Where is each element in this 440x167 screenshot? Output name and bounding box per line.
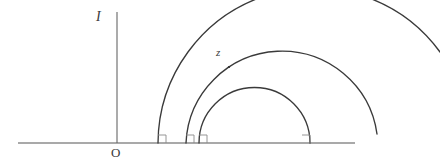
intersection-point-label: z (216, 47, 220, 58)
right-angle-marker-4 (302, 135, 310, 143)
figure-canvas (0, 0, 440, 167)
geometry-figure: I O z (0, 0, 440, 167)
right-angle-marker-3 (199, 135, 207, 143)
arc-small (199, 88, 310, 143)
intersection-point-z (228, 66, 230, 68)
origin-label: O (111, 146, 120, 159)
right-angle-marker-2 (186, 135, 194, 143)
arc-large (158, 0, 440, 143)
arc-medium (186, 51, 377, 143)
right-angle-marker-1 (158, 135, 166, 143)
vertical-axis-label: I (96, 10, 101, 24)
